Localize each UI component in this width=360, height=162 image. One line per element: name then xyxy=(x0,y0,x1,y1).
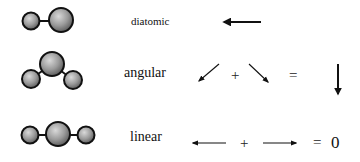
dipole-diagram: diatomic angular + = linear + = 0 xyxy=(0,0,360,162)
zero-result: 0 xyxy=(331,133,340,152)
equals-operator: = xyxy=(313,134,321,150)
angular-label: angular xyxy=(124,65,166,80)
linear-label: linear xyxy=(130,129,162,144)
down-right-arrow-icon xyxy=(249,64,268,82)
diatomic-label: diatomic xyxy=(131,15,170,27)
row-linear: linear + = 0 xyxy=(22,122,340,152)
equals-operator: = xyxy=(289,67,297,83)
down-left-arrow-icon xyxy=(199,64,219,81)
linear-molecule-icon xyxy=(22,122,95,146)
row-diatomic: diatomic xyxy=(23,8,262,32)
plus-operator: + xyxy=(231,67,239,83)
diatomic-molecule-icon xyxy=(23,8,74,32)
plus-operator: + xyxy=(240,135,248,151)
row-angular: angular + = xyxy=(22,52,338,94)
angular-molecule-icon xyxy=(22,52,82,89)
